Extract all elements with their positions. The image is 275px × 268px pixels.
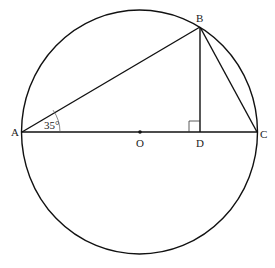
angle-label-a: 35° (44, 119, 59, 131)
segment-bc (200, 27, 257, 132)
right-angle-marker (189, 121, 200, 132)
geometry-diagram: A B C D O 35° (0, 0, 275, 268)
label-a: A (11, 126, 19, 138)
label-b: B (196, 12, 203, 24)
label-o: O (136, 137, 144, 149)
label-c: C (260, 128, 267, 140)
label-d: D (196, 137, 204, 149)
center-dot-o (138, 130, 142, 134)
segment-ab (22, 27, 200, 132)
